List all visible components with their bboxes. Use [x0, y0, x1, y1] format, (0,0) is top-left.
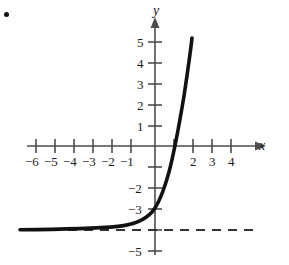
- y-tick-label-2: 2: [137, 99, 144, 112]
- y-tick-label-1: 1: [137, 120, 144, 133]
- x-tick-label-neg3: −3: [82, 155, 96, 168]
- y-axis-label: y: [153, 4, 159, 18]
- y-tick-label-3: 3: [137, 78, 144, 91]
- x-tick-label-neg6: −6: [25, 155, 39, 168]
- x-tick-label-neg2: −2: [101, 155, 115, 168]
- plot-canvas: [0, 0, 289, 265]
- y-tick-label-neg5: −5: [128, 245, 142, 258]
- y-tick-label-neg2: −2: [128, 182, 142, 195]
- x-axis: [27, 139, 266, 153]
- exponential-curve: [20, 38, 192, 230]
- y-axis: [148, 17, 162, 255]
- y-tick-label-neg3: −3: [128, 203, 142, 216]
- x-tick-label-4: 4: [228, 155, 235, 168]
- x-tick-label-3: 3: [209, 155, 216, 168]
- x-tick-label-2: 2: [190, 155, 197, 168]
- x-tick-label-neg4: −4: [63, 155, 77, 168]
- x-tick-label-neg1: −1: [120, 155, 134, 168]
- x-axis-label: x: [259, 139, 265, 153]
- y-tick-label-4: 4: [137, 57, 144, 70]
- y-tick-label-5: 5: [137, 36, 144, 49]
- graph-figure: x y −6 −5 −4 −3 −2 −1 2 3 4 5 4 3 2 1 −2…: [0, 0, 289, 265]
- x-tick-label-neg5: −5: [44, 155, 58, 168]
